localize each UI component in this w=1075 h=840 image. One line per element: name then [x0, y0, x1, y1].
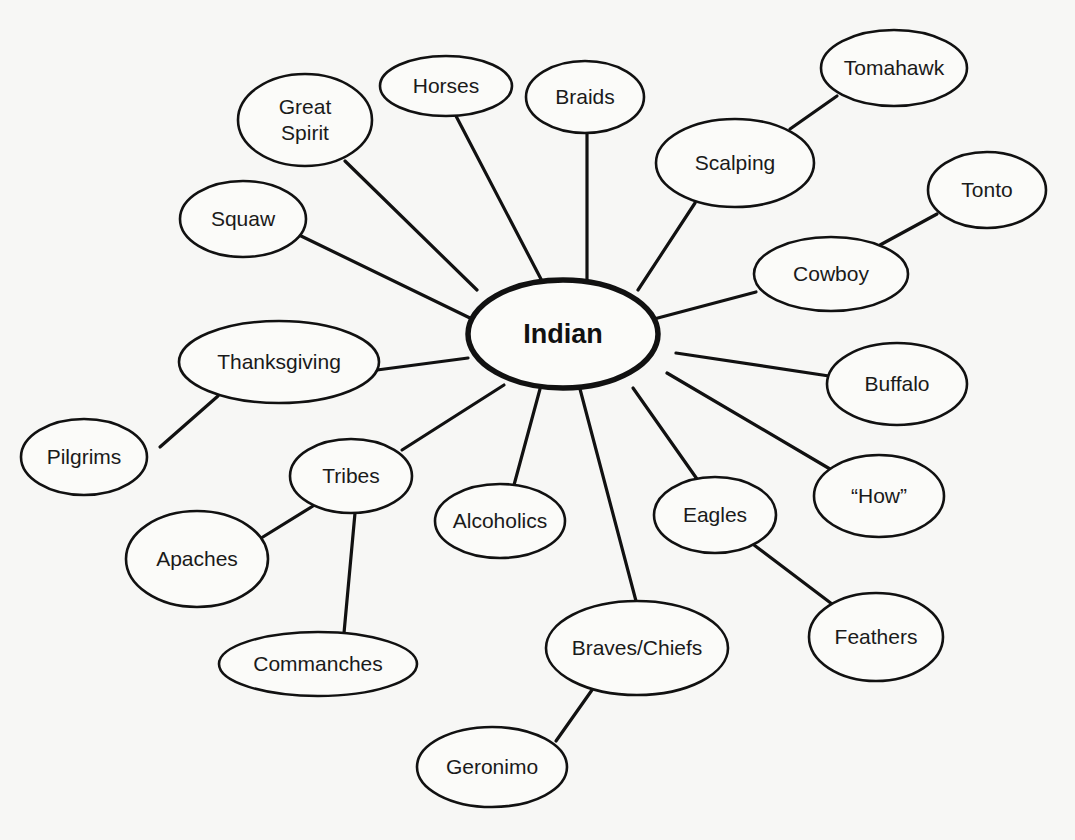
node-label: Great [279, 95, 332, 118]
node-tomahawk: Tomahawk [821, 30, 967, 106]
edge-center-horses [456, 116, 542, 281]
node-alcoholics: Alcoholics [435, 484, 565, 558]
node-label: Horses [413, 74, 480, 97]
node-great-spirit: GreatSpirit [238, 74, 372, 166]
node-how: “How” [814, 455, 944, 537]
node-label: Commanches [253, 652, 383, 675]
edge-center-braves-chiefs [580, 389, 636, 601]
edge-center-buffalo [676, 353, 829, 376]
concept-web-diagram: g GreatSpiritHorsesBraidsScalpingTomahaw… [0, 0, 1075, 840]
edge-cowboy-tonto [880, 214, 937, 245]
node-braves-chiefs: Braves/Chiefs [546, 601, 728, 695]
node-braids: Braids [526, 61, 644, 133]
node-buffalo: Buffalo [827, 343, 967, 425]
edge-center-tribes [402, 385, 504, 450]
node-pilgrims: Pilgrims [21, 419, 147, 495]
node-ellipse [238, 74, 372, 166]
center-label: Indian [523, 319, 603, 349]
node-label: Thanksgiving [217, 350, 341, 373]
edge-center-great-spirit [345, 161, 477, 290]
node-label: Scalping [695, 151, 776, 174]
edge-scalping-tomahawk [790, 96, 837, 129]
node-label: Squaw [211, 207, 276, 230]
edge-center-scalping [638, 203, 695, 290]
node-label: “How” [851, 484, 907, 507]
node-squaw: Squaw [180, 181, 306, 257]
node-cowboy: Cowboy [754, 237, 908, 311]
node-label: Braids [555, 85, 615, 108]
node-feathers: Feathers [809, 593, 943, 681]
node-commanches: Commanches [219, 632, 417, 696]
edge-center-alcoholics [514, 389, 540, 485]
node-label: Spirit [281, 121, 329, 144]
node-geronimo: Geronimo [417, 727, 567, 807]
node-label: Cowboy [793, 262, 869, 285]
node-label: Apaches [156, 547, 238, 570]
edge-braves-chiefs-geronimo [556, 690, 592, 741]
node-label: Geronimo [446, 755, 538, 778]
center-node: Indian [468, 280, 658, 388]
node-tribes: Tribes [290, 439, 412, 513]
node-horses: Horses [380, 56, 512, 116]
node-label: Pilgrims [47, 445, 122, 468]
node-label: Braves/Chiefs [572, 636, 703, 659]
node-label: Buffalo [865, 372, 930, 395]
edge-center-squaw [299, 235, 470, 318]
edge-center-eagles [633, 388, 697, 479]
edge-thanksgiving-pilgrims [160, 396, 218, 447]
node-label: Alcoholics [453, 509, 548, 532]
node-thanksgiving: Thanksgiving [179, 321, 379, 403]
node-label: Feathers [835, 625, 918, 648]
node-label: Tomahawk [844, 56, 945, 79]
edge-tribes-commanches [344, 513, 355, 633]
node-label: Tribes [322, 464, 380, 487]
edge-center-thanksgiving [377, 358, 468, 370]
node-scalping: Scalping [656, 119, 814, 207]
edge-eagles-feathers [754, 545, 832, 604]
node-tonto: Tonto [928, 152, 1046, 228]
edge-center-cowboy [654, 292, 756, 319]
node-apaches: Apaches [126, 511, 268, 607]
node-label: Eagles [683, 503, 747, 526]
node-eagles: Eagles [654, 477, 776, 553]
node-label: Tonto [961, 178, 1012, 201]
edge-tribes-apaches [258, 506, 313, 540]
edge-center-how [667, 373, 830, 469]
